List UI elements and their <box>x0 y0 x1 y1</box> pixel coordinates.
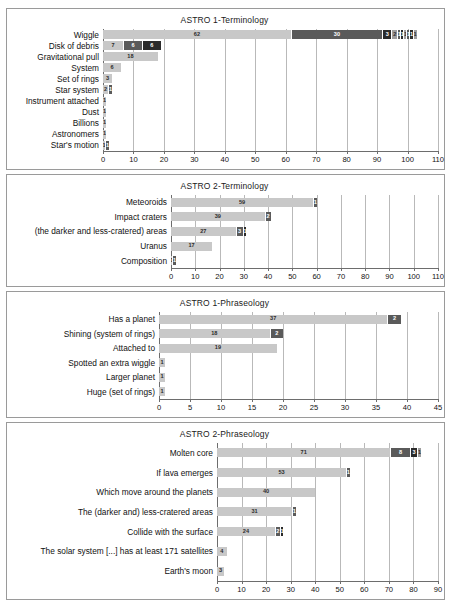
segment-value: 1 <box>106 143 109 149</box>
axis-tick-label: 30 <box>240 272 248 281</box>
category-label: Star's motion <box>11 140 103 150</box>
bar-segment[interactable]: 4 <box>217 547 227 556</box>
bar-segment[interactable]: 2 <box>271 329 283 338</box>
gridline <box>438 29 439 151</box>
bar-segment[interactable]: 1 <box>109 85 112 94</box>
bar-segment[interactable]: 18 <box>103 52 158 61</box>
stacked-bar[interactable]: 1 <box>103 119 106 128</box>
category-label: The (darker and) less-cratered areas <box>11 507 217 517</box>
category-label: Wiggle <box>11 30 103 40</box>
x-axis: 0102030405060708090100110 <box>103 151 438 167</box>
stacked-bar[interactable]: 1 <box>159 387 165 396</box>
axis-tick <box>413 581 414 584</box>
bar-segment[interactable]: 3 <box>217 567 224 576</box>
bar-segment[interactable]: 1 <box>293 507 295 516</box>
stacked-bar[interactable]: 2731 <box>171 227 246 236</box>
axis-tick-label: 20 <box>215 272 223 281</box>
stacked-bar[interactable]: 71831 <box>217 448 421 457</box>
stacked-bar[interactable]: 311 <box>217 507 296 516</box>
bar-segment[interactable]: 1 <box>159 358 165 367</box>
axis-tick <box>164 151 165 154</box>
bar-segment[interactable]: 2 <box>388 315 400 324</box>
bar-segment[interactable]: 1 <box>103 130 106 139</box>
stacked-bar[interactable]: 1 <box>159 373 165 382</box>
bar-segment[interactable]: 1 <box>281 527 283 536</box>
stacked-bar[interactable]: 21 <box>103 85 112 94</box>
bar-segment[interactable]: 3 <box>383 30 392 39</box>
stacked-bar[interactable]: 18 <box>103 52 158 61</box>
bar-segment[interactable]: 3 <box>237 227 244 236</box>
axis-tick-label: 30 <box>286 585 294 594</box>
bar-segment[interactable]: 3 <box>103 74 112 83</box>
stacked-bar[interactable]: 531 <box>217 468 350 477</box>
bar-segment[interactable]: 1 <box>173 256 175 265</box>
x-axis: 051015202530354045 <box>159 399 438 415</box>
axis-tick <box>376 399 377 402</box>
bar-segment[interactable]: 1 <box>244 227 246 236</box>
bar-segment[interactable]: 24 <box>217 527 276 536</box>
stacked-bar[interactable]: 19 <box>159 344 277 353</box>
stacked-bar[interactable]: 1 <box>103 130 106 139</box>
stacked-bar[interactable]: 6 <box>103 63 121 72</box>
segment-value: 27 <box>200 229 206 235</box>
bar-segment[interactable]: 7 <box>103 41 124 50</box>
axis-tick-label: 100 <box>407 272 420 281</box>
stacked-bar[interactable]: 11 <box>103 141 109 150</box>
stacked-bar[interactable]: 591 <box>171 198 317 207</box>
bar-row: Earth's moon3 <box>11 566 438 577</box>
stacked-bar[interactable]: 2421 <box>217 527 283 536</box>
stacked-bar[interactable]: 372 <box>159 315 401 324</box>
bar-segment[interactable]: 18 <box>159 329 271 338</box>
axis-tick <box>217 581 218 584</box>
bar-segment[interactable]: 17 <box>171 242 212 251</box>
axis-tick <box>377 151 378 154</box>
bar-segment[interactable]: 27 <box>171 227 237 236</box>
bar-segment[interactable]: 1 <box>103 97 106 106</box>
axis-tick <box>221 399 222 402</box>
bar-segment[interactable]: 39 <box>171 212 266 221</box>
stacked-bar[interactable]: 1 <box>159 358 165 367</box>
stacked-bar[interactable]: 392 <box>171 212 271 221</box>
bar-segment[interactable]: 1 <box>106 141 109 150</box>
axis-tick-label: 50 <box>336 585 344 594</box>
bar-segment[interactable]: 31 <box>217 507 293 516</box>
charts-page: ASTRO 1-Terminology Wiggle623032111111Di… <box>0 0 451 616</box>
axis-tick <box>190 399 191 402</box>
axis-tick <box>314 399 315 402</box>
bar-segment[interactable]: 1 <box>418 448 420 457</box>
stacked-bar[interactable]: 1 <box>103 108 106 117</box>
bar-segment[interactable]: 6 <box>103 63 121 72</box>
stacked-bar[interactable]: 17 <box>171 242 212 251</box>
bar-segment[interactable]: 1 <box>314 198 316 207</box>
bar-segment[interactable]: 8 <box>391 448 411 457</box>
bar-segment[interactable]: 53 <box>217 468 347 477</box>
stacked-bar[interactable]: 40 <box>217 488 315 497</box>
axis-spacer <box>11 151 103 167</box>
stacked-bar[interactable]: 623032111111 <box>103 30 417 39</box>
bar-segment[interactable]: 3 <box>411 448 418 457</box>
stacked-bar[interactable]: 182 <box>159 329 283 338</box>
stacked-bar[interactable]: 3 <box>103 74 112 83</box>
stacked-bar[interactable]: 11 <box>171 256 176 265</box>
stacked-bar[interactable]: 1 <box>103 97 106 106</box>
bar-segment[interactable]: 37 <box>159 315 388 324</box>
bar-segment[interactable]: 1 <box>159 373 165 382</box>
bar-segment[interactable]: 30 <box>292 30 383 39</box>
bar-segment[interactable]: 2 <box>266 212 271 221</box>
bar-segment[interactable]: 1 <box>159 387 165 396</box>
bar-segment[interactable]: 1 <box>347 468 349 477</box>
bar-segment[interactable]: 1 <box>414 30 417 39</box>
stacked-bar[interactable]: 4 <box>217 547 227 556</box>
bar-segment[interactable]: 62 <box>103 30 292 39</box>
bar-segment[interactable]: 71 <box>217 448 391 457</box>
stacked-bar[interactable]: 766 <box>103 41 161 50</box>
bar-segment[interactable]: 1 <box>103 108 106 117</box>
bar-segment[interactable]: 59 <box>171 198 314 207</box>
bar-segment[interactable]: 6 <box>124 41 142 50</box>
axis-tick-label: 80 <box>342 155 350 164</box>
stacked-bar[interactable]: 3 <box>217 567 224 576</box>
bar-segment[interactable]: 40 <box>217 488 315 497</box>
bar-segment[interactable]: 6 <box>143 41 161 50</box>
bar-segment[interactable]: 19 <box>159 344 277 353</box>
bar-segment[interactable]: 1 <box>103 119 106 128</box>
